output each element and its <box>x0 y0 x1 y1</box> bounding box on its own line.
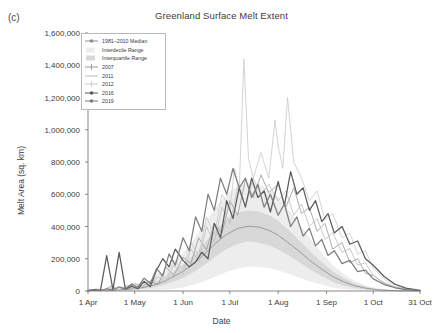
legend-item: 2007 <box>84 63 162 72</box>
y-tick-label: 200,000 <box>18 254 80 263</box>
legend-item: Interdecile Range <box>84 46 162 55</box>
legend-line-dot-icon <box>84 89 100 97</box>
legend-line-dot-icon <box>84 37 100 45</box>
y-tick-label: 0 <box>18 287 80 296</box>
x-tick-label: 1 Oct <box>348 298 398 307</box>
legend-line-icon <box>84 72 100 80</box>
legend-label: 1981–2010 Median <box>102 37 147 45</box>
legend-label: Interdecile Range <box>102 46 144 54</box>
legend-swatch-icon <box>84 46 100 54</box>
figure-panel: (c) Greenland Surface Melt Extent Melt A… <box>0 0 443 333</box>
legend-label: 2007 <box>102 63 114 71</box>
legend-line-dot-icon <box>84 97 100 105</box>
legend-item: Interquartile Range <box>84 54 162 63</box>
legend-item: 1981–2010 Median <box>84 37 162 46</box>
legend-label: 2016 <box>102 89 114 97</box>
x-tick-label: 1 Aug <box>253 298 303 307</box>
x-tick-label: 1 Jul <box>205 298 255 307</box>
y-tick-label: 800,000 <box>18 158 80 167</box>
x-tick-label: 1 May <box>110 298 160 307</box>
x-tick-label: 1 Jun <box>158 298 208 307</box>
y-tick-label: 1,400,000 <box>18 61 80 70</box>
x-axis-label: Date <box>0 316 443 326</box>
legend-label: 2019 <box>102 97 114 105</box>
y-tick-label: 1,600,000 <box>18 29 80 38</box>
legend-swatch-icon <box>84 54 100 62</box>
y-axis-label: Melt Area (sq. km) <box>16 146 26 215</box>
y-tick-label: 600,000 <box>18 190 80 199</box>
y-tick-label: 400,000 <box>18 222 80 231</box>
legend-label: 2012 <box>102 80 114 88</box>
x-tick-label: 1 Sep <box>301 298 351 307</box>
legend-item: 2019 <box>84 97 162 106</box>
x-tick-label: 1 Apr <box>63 298 113 307</box>
chart-legend: 1981–2010 MedianInterdecile RangeInterqu… <box>81 33 166 110</box>
legend-item: 2011 <box>84 71 162 80</box>
legend-line-plus-icon <box>84 80 100 88</box>
melt-extent-line-chart <box>0 0 443 333</box>
legend-label: 2011 <box>102 72 113 80</box>
legend-label: Interquartile Range <box>102 54 147 62</box>
legend-line-plus-icon <box>84 63 100 71</box>
legend-item: 2016 <box>84 89 162 98</box>
y-tick-label: 1,000,000 <box>18 125 80 134</box>
x-tick-label: 31 Oct <box>395 298 443 307</box>
y-tick-label: 1,200,000 <box>18 93 80 102</box>
legend-item: 2012 <box>84 80 162 89</box>
